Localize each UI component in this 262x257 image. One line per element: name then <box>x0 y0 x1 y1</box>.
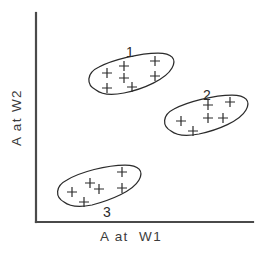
y-axis-label: A at W2 <box>9 58 24 178</box>
cluster-label-2: 2 <box>203 88 211 102</box>
cluster-3-group <box>58 165 141 207</box>
cluster-label-3: 3 <box>103 205 111 219</box>
x-axis-label: A at W1 <box>0 229 262 244</box>
plot-canvas <box>0 0 262 257</box>
cluster-label-1: 1 <box>126 45 134 59</box>
cluster-3-points <box>67 167 127 207</box>
scatter-plot-figure: A at W1 A at W2 1 2 3 <box>0 0 262 257</box>
